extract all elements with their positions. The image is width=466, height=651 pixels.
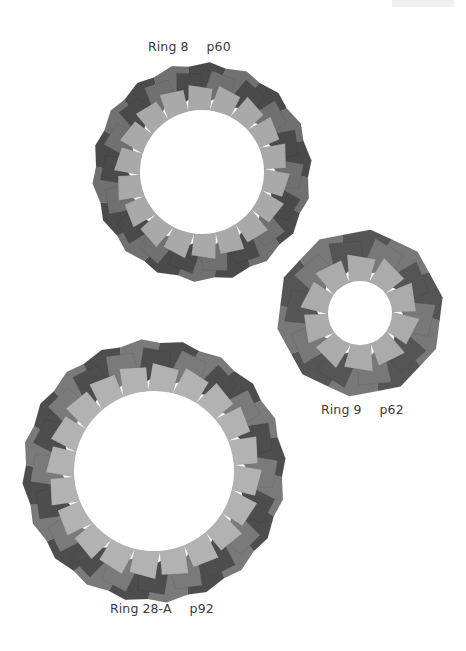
ring-28a-name: Ring 28-A — [110, 601, 172, 616]
ring-9-page: p62 — [380, 402, 404, 417]
ring-28a-photo — [22, 339, 286, 603]
ring-9-photo — [276, 229, 444, 397]
ring-28a-caption: Ring 28-Ap92 — [110, 601, 214, 616]
ring-9-name: Ring 9 — [321, 402, 362, 417]
ring-28a-page: p92 — [190, 601, 214, 616]
ring-8-caption: Ring 8p60 — [148, 39, 231, 54]
ring-8-name: Ring 8 — [148, 39, 189, 54]
ring-9-caption: Ring 9p62 — [321, 402, 404, 417]
ring-8-page: p60 — [207, 39, 231, 54]
page-header-mark — [392, 0, 454, 7]
